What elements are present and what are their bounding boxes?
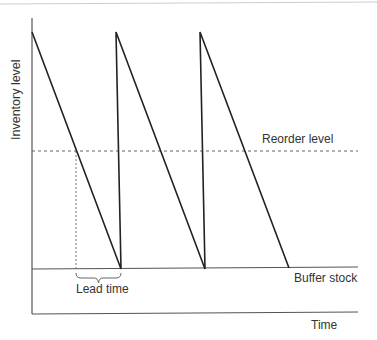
buffer-stock-label: Buffer stock (294, 271, 358, 285)
y-axis-label: Inventory level (9, 59, 23, 140)
x-axis (32, 312, 358, 314)
x-axis-label: Time (311, 318, 338, 332)
inventory-sawtooth-diagram: Inventory level Reorder level Buffer sto… (0, 0, 377, 340)
top-border (0, 2, 377, 4)
buffer-stock-line (32, 267, 358, 269)
reorder-level-label: Reorder level (262, 132, 333, 146)
lead-time-label: Lead time (76, 282, 129, 296)
